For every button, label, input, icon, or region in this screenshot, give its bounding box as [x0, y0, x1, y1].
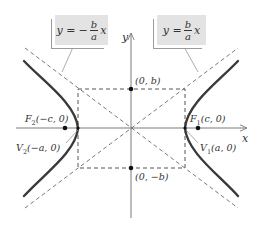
co-vertex-top-label: (0, b): [135, 76, 161, 86]
x-axis-label: x: [242, 133, 248, 144]
co-vertex-bottom-point: [129, 166, 134, 171]
leader-right-asymptote: [183, 45, 198, 72]
eq-left-sign: −: [79, 25, 88, 36]
leader-left-asymptote: [62, 45, 74, 72]
eq-left-var: x: [100, 25, 106, 36]
eq-right-fraction: b a: [184, 19, 192, 42]
co-vertex-bottom-label: (0, −b): [135, 172, 169, 182]
eq-left-numerator: b: [90, 19, 98, 30]
y-axis-label: y: [122, 32, 128, 43]
co-vertex-top-point: [129, 87, 134, 92]
focus-left-label: F2(−c, 0): [25, 114, 69, 126]
vertex-right-point: [183, 126, 186, 129]
eq-right-lhs: y =: [163, 25, 182, 36]
eq-right-denominator: a: [184, 30, 192, 42]
focus-right-label: F1(c, 0): [190, 114, 226, 126]
eq-left-fraction: b a: [90, 19, 98, 42]
vertex-left-label: V2(−a, 0): [16, 143, 60, 155]
eq-left-lhs: y =: [57, 25, 76, 36]
eq-left-denominator: a: [90, 30, 98, 42]
right-asymptote-equation-box: y = b a x: [157, 15, 206, 45]
hyperbola-diagram: y = − b a x y = b a x y x (0, b) (0, −b)…: [0, 0, 262, 231]
vertex-left-point: [76, 126, 79, 129]
eq-right-var: x: [194, 25, 200, 36]
vertex-right-label: V1(a, 0): [200, 143, 236, 155]
left-asymptote-equation-box: y = − b a x: [55, 15, 108, 45]
eq-right-numerator: b: [184, 19, 192, 30]
